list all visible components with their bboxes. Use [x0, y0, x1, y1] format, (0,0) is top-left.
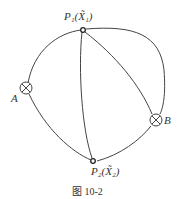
figure-caption: 图 10-2	[72, 183, 103, 198]
node-b	[150, 114, 162, 126]
label-b: B	[164, 114, 171, 126]
node-p1	[81, 28, 86, 33]
edge-p1-b-inner	[85, 32, 152, 114]
node-a	[20, 82, 32, 94]
label-a: A	[11, 92, 18, 104]
edge-p1-p2	[80, 32, 92, 158]
edge-a-p1	[28, 30, 81, 83]
edge-p2-b	[97, 126, 151, 161]
node-p2	[91, 159, 96, 164]
label-p2: P₂(X̃₂)	[91, 165, 119, 177]
label-p1: P₁(X̃₁)	[64, 10, 92, 22]
